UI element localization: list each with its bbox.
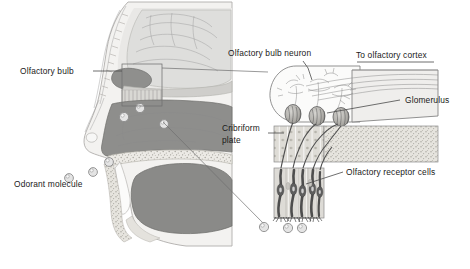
odorant-molecule [135,103,144,112]
odorant-molecule [160,120,169,129]
glomerulus [285,105,301,124]
label-olfactory-bulb: Olfactory bulb [20,66,74,76]
nostril [86,133,97,142]
nasal-cavity-mucosa [101,100,232,156]
diagram-canvas: Olfactory bulb Odorant molecule Olfactor… [0,0,470,269]
label-cribriform-plate-line1: Cribriform [222,123,260,133]
odorant-molecule [259,222,268,231]
odorant-molecule [283,223,292,232]
glomerulus [309,107,325,126]
tongue [131,164,232,234]
cribriform-plate-slab [274,126,438,162]
olfactory-diagram-figure: Olfactory bulb Odorant molecule Olfactor… [0,0,470,269]
label-cribriform-plate-line2: plate [222,135,241,145]
odorant-molecule [119,112,128,121]
label-glomerulus: Glomerulus [405,95,449,105]
label-to-olfactory-cortex: To olfactory cortex [356,50,427,60]
label-olfactory-bulb-neuron: Olfactory bulb neuron [228,48,311,58]
odorant-molecule [297,223,306,232]
label-olfactory-receptor-cells: Olfactory receptor cells [346,167,435,177]
glomeruli-group [285,105,349,127]
label-odorant-molecule: Odorant molecule [14,179,83,189]
odorant-molecule [105,158,114,167]
odorant-molecule [89,168,98,177]
